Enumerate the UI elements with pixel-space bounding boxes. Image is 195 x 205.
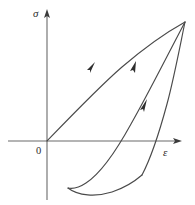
x-axis-label: ε [163, 146, 168, 158]
curve-initial-loading [47, 22, 185, 141]
curve-unloading [68, 22, 185, 188]
stress-strain-chart: σ ε 0 [0, 0, 195, 205]
direction-arrow-unloading-icon [130, 61, 136, 73]
curve-loop-bottom [68, 175, 142, 195]
direction-arrow-loading-icon [87, 62, 95, 73]
origin-label: 0 [36, 145, 41, 156]
direction-arrows-group [87, 61, 147, 112]
hysteresis-curves-group [47, 22, 185, 195]
axes-group [8, 9, 182, 200]
hysteresis-figure: σ ε 0 [0, 0, 195, 205]
y-axis-label: σ [33, 7, 39, 19]
